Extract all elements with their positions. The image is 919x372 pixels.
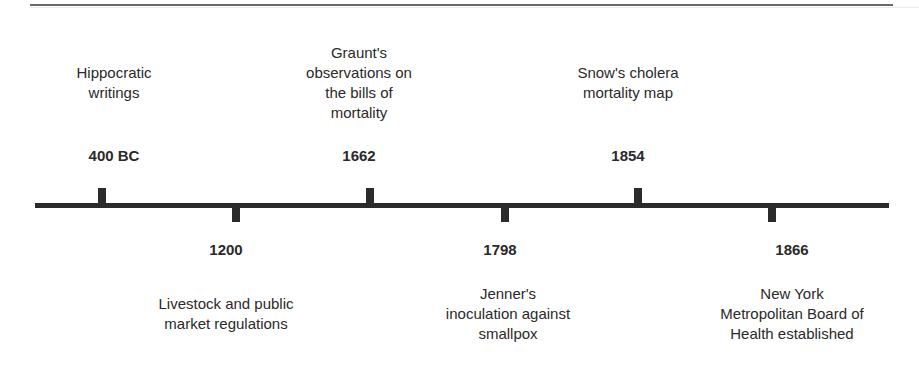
event-desc-1662: Graunt's observations on the bills of mo…	[306, 43, 412, 123]
year-400bc: 400 BC	[89, 147, 140, 164]
top-divider-shadow	[30, 7, 919, 8]
year-1200: 1200	[209, 241, 242, 258]
tick-1854	[634, 188, 642, 203]
event-desc-400bc: Hippocratic writings	[76, 63, 151, 103]
timeline-axis	[35, 203, 889, 208]
year-1866: 1866	[775, 241, 808, 258]
tick-400bc	[98, 188, 106, 203]
tick-1200	[232, 207, 240, 222]
top-divider	[30, 4, 893, 6]
event-desc-1200: Livestock and public market regulations	[158, 294, 293, 334]
tick-1866	[768, 207, 776, 222]
event-desc-1854: Snow's cholera mortality map	[577, 63, 678, 103]
tick-1798	[501, 207, 509, 222]
tick-1662	[366, 188, 374, 203]
year-1854: 1854	[611, 147, 644, 164]
year-1798: 1798	[483, 241, 516, 258]
event-desc-1798: Jenner's inoculation against smallpox	[446, 284, 570, 344]
year-1662: 1662	[342, 147, 375, 164]
event-desc-1866: New York Metropolitan Board of Health es…	[720, 284, 863, 344]
